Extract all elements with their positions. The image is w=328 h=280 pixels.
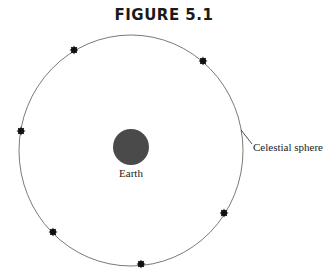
star-core [221,210,227,216]
star-core [138,261,144,267]
earth-disc [113,129,149,165]
star-core [18,128,24,134]
celestial-sphere-figure: FIGURE 5.1 Earth Celestial sphere [0,0,328,280]
star-core [50,229,56,235]
diagram-canvas [0,0,328,280]
star-core [71,47,77,53]
celestial-sphere-label: Celestial sphere [253,141,323,153]
star-core [200,58,206,64]
earth-label: Earth [111,167,151,179]
